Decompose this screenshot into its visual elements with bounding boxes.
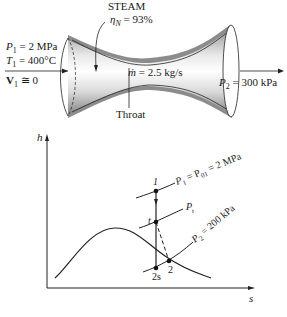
state-label-t: t bbox=[148, 215, 151, 226]
state-point-t bbox=[154, 220, 159, 225]
s-axis-label: s bbox=[249, 292, 253, 304]
outlet-arrow-icon bbox=[278, 69, 284, 74]
actual-expansion-line bbox=[156, 222, 169, 261]
state-label-2: 2 bbox=[168, 264, 173, 275]
state-point-1 bbox=[154, 189, 159, 194]
mass-flow-rate: ṁ = 2.5 kg/s bbox=[128, 66, 183, 78]
h-axis-label: h bbox=[37, 131, 43, 143]
inlet-velocity: V1 ≅ 0 bbox=[6, 74, 38, 89]
isobar-pt bbox=[139, 209, 183, 228]
state-label-2s: 2s bbox=[152, 271, 161, 282]
isobar-p1-label: P1 = P01 = 2 MPa bbox=[173, 150, 244, 190]
process-arrow-icon bbox=[154, 199, 158, 205]
state-label-1: 1 bbox=[153, 176, 158, 187]
s-axis-arrow-icon bbox=[248, 286, 255, 290]
h-axis-arrow-icon bbox=[45, 134, 49, 141]
throat-label: Throat bbox=[116, 108, 145, 120]
inlet-pressure: P1 = 2 MPa bbox=[5, 40, 58, 55]
nozzle-and-hs-diagram: STEAM ηN = 93% P1 = 2 MPa T1 = 400°C V1 … bbox=[0, 0, 287, 317]
inlet-face bbox=[61, 38, 69, 116]
outlet-face bbox=[223, 25, 239, 117]
state-point-2 bbox=[167, 259, 172, 264]
inlet-temperature: T1 = 400°C bbox=[6, 54, 56, 69]
state-point-2s bbox=[154, 266, 159, 271]
saturation-dome bbox=[55, 228, 211, 278]
nozzle-efficiency: ηN = 93% bbox=[110, 13, 153, 28]
steam-label: STEAM bbox=[108, 0, 146, 12]
isobar-p2-label: P2 = 200 kPa bbox=[188, 202, 239, 248]
isobar-pt-label: Pt bbox=[185, 201, 194, 215]
inlet-arrow-icon bbox=[62, 69, 68, 74]
